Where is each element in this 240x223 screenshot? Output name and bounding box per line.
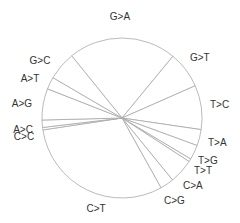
- pie-chart: G>AG>TT>CT>AT>GT>TC>AC>GC>TC>CA>CA>GA>TG…: [0, 0, 240, 223]
- slice-label: G>A: [110, 11, 131, 22]
- slice-label: C>T: [86, 203, 105, 214]
- slice-label: T>A: [208, 137, 227, 148]
- slice-label: T>C: [210, 99, 229, 110]
- slice-label: A>C: [13, 124, 33, 135]
- slice-label: C>G: [164, 195, 185, 206]
- slice-label: G>C: [30, 55, 51, 66]
- slice-label: G>T: [190, 52, 210, 63]
- slice-label: A>G: [12, 98, 33, 109]
- slice-label: T>T: [194, 165, 212, 176]
- slice-label: A>T: [21, 73, 40, 84]
- slice-label: C>A: [183, 180, 203, 191]
- pie-slices: [42, 38, 202, 198]
